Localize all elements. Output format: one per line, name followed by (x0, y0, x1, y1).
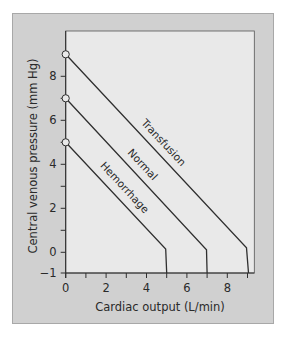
x-tick-label: 4 (143, 281, 150, 295)
x-axis-title: Cardiac output (L/min) (95, 300, 225, 314)
y-tick-label: 2 (49, 201, 56, 215)
x-tick-label: 8 (224, 281, 231, 295)
y-tick-label: 4 (49, 157, 56, 171)
x-tick-label: 0 (62, 281, 69, 295)
x-tick-label: 6 (183, 281, 190, 295)
x-tick-label: 2 (102, 281, 109, 295)
y-tick-label: −1 (40, 266, 57, 280)
y-tick-label: 8 (49, 69, 56, 83)
open-circle-marker (62, 51, 69, 58)
plot-area (66, 31, 255, 273)
chart-svg: −102468 02468 TransfusionNormalHemorrhag… (0, 0, 285, 337)
open-circle-marker (62, 139, 69, 146)
y-tick-label: 0 (49, 245, 56, 259)
chart-figure: −102468 02468 TransfusionNormalHemorrhag… (0, 0, 285, 337)
y-axis-title: Central venous pressure (mm Hg) (26, 59, 40, 254)
y-tick-label: 6 (49, 113, 56, 127)
open-circle-marker (62, 95, 69, 102)
